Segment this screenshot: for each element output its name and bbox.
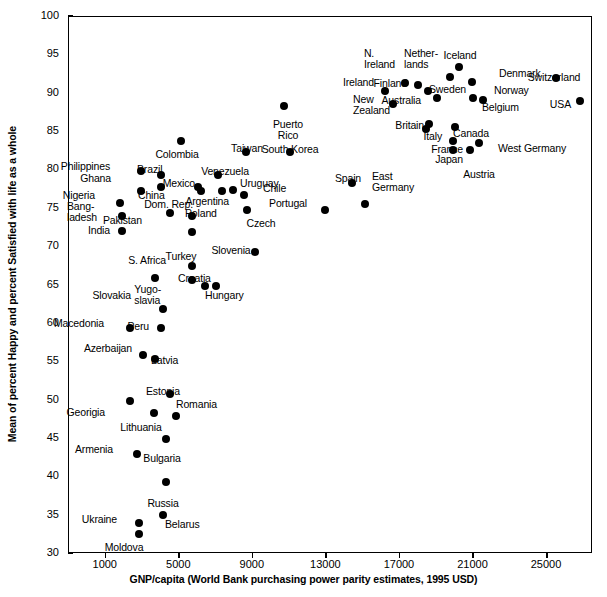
- data-point-label: Bang-ladesh: [67, 201, 97, 222]
- data-point-marker: [166, 209, 174, 217]
- data-point-marker: [126, 397, 134, 405]
- data-point-marker: [150, 409, 158, 417]
- y-tick-label: 80: [33, 162, 59, 174]
- data-point-label: Iceland: [444, 50, 477, 61]
- x-tick-mark: [105, 553, 107, 558]
- data-point-label: Spain: [335, 173, 361, 184]
- x-tick-mark: [325, 553, 327, 558]
- data-point-marker: [159, 305, 167, 313]
- data-point-label: Nether-lands: [404, 48, 438, 69]
- x-tick-mark: [178, 553, 180, 558]
- y-tick-label: 50: [33, 393, 59, 405]
- data-point-label: Yugo-slavia: [134, 284, 161, 305]
- data-point-label: Turkey: [166, 251, 197, 262]
- data-point-marker: [162, 435, 170, 443]
- data-point-label: USA: [550, 99, 571, 110]
- x-tick-label: 1000: [75, 558, 135, 570]
- data-point-marker: [280, 102, 288, 110]
- data-point-marker: [475, 139, 483, 147]
- data-point-marker: [414, 81, 422, 89]
- data-point-marker: [188, 228, 196, 236]
- data-point-label: Slovakia: [93, 290, 132, 301]
- data-point-marker: [135, 519, 143, 527]
- data-point-label: Norway: [494, 85, 529, 96]
- x-tick-mark: [399, 553, 401, 558]
- data-point-marker: [321, 206, 329, 214]
- data-point-marker: [455, 63, 463, 71]
- data-point-label: PuertoRico: [273, 119, 303, 140]
- data-point-marker: [133, 450, 141, 458]
- data-point-marker: [116, 199, 124, 207]
- y-tick-label: 70: [33, 239, 59, 251]
- data-point-marker: [229, 186, 237, 194]
- data-point-label: Bulgaria: [143, 453, 180, 464]
- data-point-marker: [240, 191, 248, 199]
- x-tick-mark: [546, 553, 548, 558]
- x-tick-label: 5000: [148, 558, 208, 570]
- data-point-marker: [446, 73, 454, 81]
- y-tick-label: 35: [33, 508, 59, 520]
- data-point-marker: [118, 227, 126, 235]
- y-tick-label: 75: [33, 201, 59, 213]
- x-tick-mark: [472, 553, 474, 558]
- data-point-label: Canada: [453, 128, 489, 139]
- data-point-marker: [466, 146, 474, 154]
- data-point-marker: [576, 97, 584, 105]
- data-point-marker: [177, 137, 185, 145]
- x-tick-mark: [252, 553, 254, 558]
- data-point-label: Denmark: [499, 68, 541, 79]
- x-tick-label: 21000: [442, 558, 502, 570]
- data-point-label: N.Ireland: [364, 48, 395, 69]
- y-tick-label: 90: [33, 86, 59, 98]
- data-point-marker: [433, 94, 441, 102]
- data-point-label: EastGermany: [372, 171, 414, 192]
- data-point-marker: [151, 274, 159, 282]
- data-point-label: Venezuela: [201, 166, 249, 177]
- data-point-marker: [194, 183, 202, 191]
- data-point-label: Moldova: [105, 542, 144, 553]
- data-point-label: Mexico: [163, 178, 195, 189]
- data-point-label: Russia: [147, 498, 178, 509]
- scatter-plot-figure: Mean of percent Happy and percent Satisf…: [0, 0, 607, 597]
- data-point-marker: [251, 248, 259, 256]
- x-axis-title: GNP/capita (World Bank purchasing power …: [0, 573, 607, 585]
- x-tick-label: 17000: [369, 558, 429, 570]
- data-point-label: Czech: [246, 218, 275, 229]
- data-point-label: Belarus: [165, 519, 200, 530]
- y-tick-label: 85: [33, 124, 59, 136]
- data-point-label: West Germany: [498, 143, 566, 154]
- plot-area: PuertoRicoIcelandSwitzerlandDenmarkNethe…: [68, 16, 592, 553]
- data-point-label: Macedonia: [54, 318, 104, 329]
- x-tick-label: 9000: [222, 558, 282, 570]
- y-tick-label: 100: [33, 9, 59, 21]
- x-tick-label: 25000: [516, 558, 576, 570]
- y-tick-label: 30: [33, 546, 59, 558]
- data-point-label: Poland: [185, 208, 217, 219]
- data-point-label: Ukraine: [82, 514, 117, 525]
- y-tick-label: 55: [33, 354, 59, 366]
- data-point-label: Portugal: [269, 198, 307, 209]
- data-point-label: Slovenia: [211, 245, 250, 256]
- data-point-marker: [361, 200, 369, 208]
- data-point-label: Japan: [435, 154, 463, 165]
- data-point-label: Argentina: [185, 196, 229, 207]
- data-point-label: Chile: [263, 183, 286, 194]
- y-tick-label: 65: [33, 278, 59, 290]
- data-point-label: Estonia: [146, 386, 180, 397]
- x-tick-label: 13000: [295, 558, 355, 570]
- data-point-label: Azerbaijan: [84, 343, 132, 354]
- data-point-label: Australia: [381, 95, 421, 106]
- data-point-marker: [135, 530, 143, 538]
- data-point-marker: [468, 78, 476, 86]
- data-point-label: Ghana: [80, 173, 111, 184]
- data-point-marker: [172, 412, 180, 420]
- data-point-label: Ireland: [343, 77, 374, 88]
- data-point-marker: [469, 94, 477, 102]
- y-tick-label: 45: [33, 431, 59, 443]
- data-point-label: Italy: [423, 131, 442, 142]
- data-point-label: Romania: [176, 399, 217, 410]
- data-point-label: Philippines: [61, 161, 110, 172]
- data-point-label: Georigia: [67, 407, 106, 418]
- data-point-label: Hungary: [205, 290, 244, 301]
- data-point-label: India: [88, 225, 110, 236]
